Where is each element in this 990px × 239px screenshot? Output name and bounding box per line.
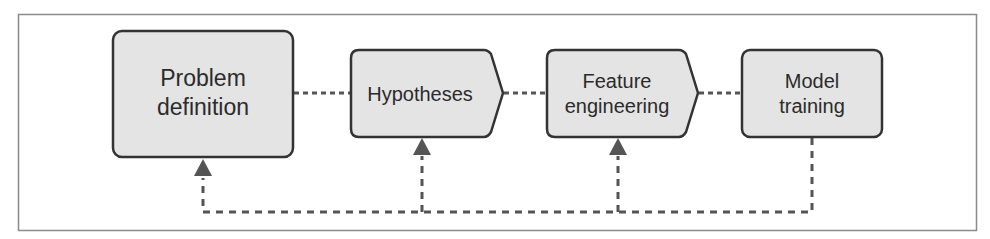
node-label-line-1: Model xyxy=(785,70,839,92)
node-label-line-2: definition xyxy=(157,94,249,120)
node-label-line-2: engineering xyxy=(565,95,670,117)
node-feature-engineering[interactable]: Feature engineering xyxy=(547,50,698,137)
feedback-loop-line xyxy=(203,138,812,212)
node-label-line-1: Hypotheses xyxy=(367,83,473,105)
workflow-diagram: Problem definition Hypotheses Feature en… xyxy=(0,0,990,239)
node-model-training[interactable]: Model training xyxy=(742,50,882,137)
node-label-line-2: training xyxy=(779,95,845,117)
arrowhead-hypotheses xyxy=(413,138,431,155)
node-hypotheses[interactable]: Hypotheses xyxy=(351,50,503,137)
arrowhead-problem-definition xyxy=(194,159,212,176)
node-problem-definition[interactable]: Problem definition xyxy=(113,31,293,157)
node-label-line-1: Problem xyxy=(160,65,246,91)
arrowhead-feature-engineering xyxy=(609,138,627,155)
node-label-line-1: Feature xyxy=(583,70,652,92)
